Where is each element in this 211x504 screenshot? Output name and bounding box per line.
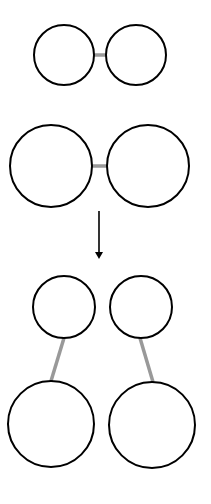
pair-large-circle-2 xyxy=(107,125,189,207)
separated-pairs-connector-2 xyxy=(140,338,153,382)
diagram-canvas xyxy=(0,0,211,504)
arrow-down-icon xyxy=(95,211,103,259)
separated-pairs-circle-2 xyxy=(110,276,172,338)
separated-pairs-circle-1 xyxy=(33,276,95,338)
separated-pairs-circle-4 xyxy=(109,382,195,468)
pair-large-circle-1 xyxy=(10,125,92,207)
separated-pairs-connector-1 xyxy=(51,338,64,381)
separated-pairs-circle-3 xyxy=(8,381,94,467)
pair-small-circle-2 xyxy=(106,25,166,85)
pair-small-circle-1 xyxy=(34,25,94,85)
